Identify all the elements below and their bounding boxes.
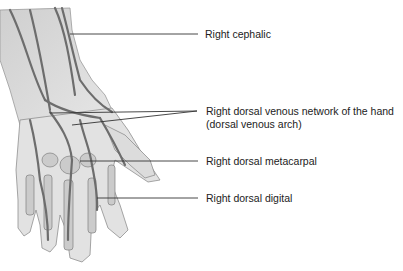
hand-illustration [0,0,403,271]
label-right-dorsal-venous-network: Right dorsal venous network of the hand [206,105,394,117]
label-right-dorsal-digital: Right dorsal digital [206,192,292,204]
label-dorsal-venous-arch: (dorsal venous arch) [206,118,302,130]
label-right-dorsal-metacarpal: Right dorsal metacarpal [206,155,317,167]
label-right-cephalic: Right cephalic [205,28,271,40]
